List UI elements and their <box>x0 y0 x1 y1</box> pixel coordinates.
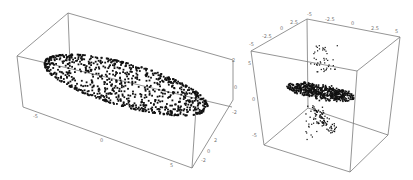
right-axis-ticks: -5-2.502.5-5-2.502.5550-5 <box>248 11 398 138</box>
axis-tick-label: 2 <box>214 137 217 143</box>
axis-tick-label: 2.5 <box>371 25 379 31</box>
axis-tick-label: -2 <box>232 109 237 115</box>
axis-tick-label: -2.5 <box>325 16 335 22</box>
axis-tick-label: 0 <box>100 137 103 143</box>
axis-tick-label: 5 <box>395 28 398 34</box>
axis-tick-label: 0 <box>234 84 237 90</box>
right-point-cloud <box>286 45 354 140</box>
axis-tick-label: -2 <box>201 157 206 163</box>
left-3d-scatter-plot[interactable]: -50520-220-2 <box>0 0 240 180</box>
axis-tick-label: 5 <box>170 162 173 168</box>
axis-tick-label: -5 <box>249 41 254 47</box>
axis-tick-label: -5 <box>252 132 257 138</box>
axis-tick-label: 0 <box>280 25 283 31</box>
axis-tick-label: 0 <box>252 96 255 102</box>
axis-tick-label: 2 <box>232 57 235 63</box>
axis-tick-label: 0 <box>207 148 210 154</box>
axis-tick-label: -5 <box>307 11 312 17</box>
axis-tick-label: -5 <box>33 113 38 119</box>
left-point-cloud <box>44 54 209 117</box>
axis-tick-label: 5 <box>248 60 251 66</box>
right-bounding-box <box>251 19 400 172</box>
axis-tick-label: 2.5 <box>290 19 298 25</box>
axis-tick-label: 0 <box>351 20 354 26</box>
axis-tick-label: -2.5 <box>262 33 272 39</box>
